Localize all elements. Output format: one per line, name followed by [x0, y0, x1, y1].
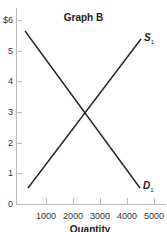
demand-curve-label: D1 [143, 180, 154, 193]
supply-curve-label: S1 [144, 32, 154, 45]
demand-curve-d1 [25, 31, 140, 188]
plot-area [0, 0, 167, 232]
